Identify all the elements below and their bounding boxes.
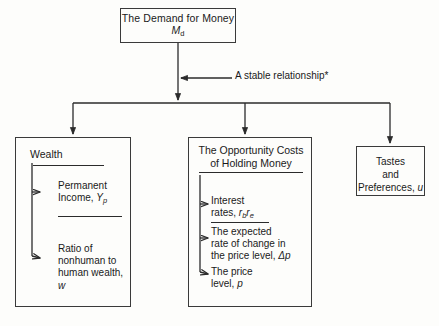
opportunity-item-interest-rates: Interest rates, rbre	[211, 195, 254, 222]
opportunity-header-line1: The Opportunity Costs	[196, 144, 306, 157]
opportunity-item-expected-price-change: The expected rate of change in the price…	[211, 226, 291, 263]
interest-rates-line2: rates, rbre	[211, 207, 254, 222]
opportunity-divider-rule	[211, 222, 269, 223]
root-symbol-subscript: d	[180, 29, 184, 38]
tastes-line3: Preferences, u	[357, 181, 424, 194]
price-level-symbol: p	[237, 278, 243, 289]
price-level-line2: level, p	[211, 278, 253, 290]
tastes-line2: and	[357, 168, 424, 181]
opportunity-item-price-level: The price level, p	[211, 266, 253, 290]
permanent-income-line1: Permanent	[58, 180, 107, 192]
root-box-title: The Demand for Money	[122, 12, 234, 24]
root-box-symbol: Md	[172, 24, 185, 40]
wealth-item-nonhuman-ratio: Ratio of nonhuman to human wealth, w	[58, 243, 130, 292]
ratio-symbol: w	[58, 280, 65, 291]
money-demand-diagram: The Demand for Money Md A stable relatio…	[0, 0, 439, 326]
opportunity-costs-box: The Opportunity Costs of Holding Money I…	[188, 137, 312, 307]
delta-p-symbol: Δp	[278, 250, 290, 261]
opportunity-header-line2: of Holding Money	[196, 157, 306, 170]
expected-change-line3: the price level, Δp	[211, 250, 291, 262]
wealth-box: Wealth Permanent Income, Yp Ratio of non…	[15, 137, 131, 307]
ratio-line2: nonhuman to	[58, 255, 130, 267]
root-box-demand-for-money: The Demand for Money Md	[120, 8, 236, 43]
tastes-symbol: u	[417, 182, 423, 193]
tastes-content: Tastes and Preferences, u	[357, 155, 424, 194]
tastes-line1: Tastes	[357, 155, 424, 168]
permanent-income-subscript: p	[103, 196, 107, 205]
price-level-line1: The price	[211, 266, 253, 278]
stable-relationship-annotation: A stable relationship*	[235, 70, 328, 81]
wealth-header: Wealth	[30, 148, 63, 161]
wealth-divider-rule	[58, 216, 122, 217]
expected-change-line2: rate of change in	[211, 238, 291, 250]
opportunity-costs-header: The Opportunity Costs of Holding Money	[196, 144, 306, 170]
expected-change-line1: The expected	[211, 226, 291, 238]
root-symbol-md: M	[172, 24, 181, 36]
interest-rate-equity-subscript: e	[250, 211, 254, 220]
wealth-header-rule	[33, 165, 104, 166]
wealth-item-permanent-income: Permanent Income, Yp	[58, 180, 107, 207]
interest-rates-line1: Interest	[211, 195, 254, 207]
permanent-income-line2: Income, Yp	[58, 192, 107, 207]
tastes-and-preferences-box: Tastes and Preferences, u	[356, 146, 425, 196]
ratio-line3: human wealth, w	[58, 267, 130, 291]
opportunity-header-rule	[199, 172, 303, 173]
ratio-line1: Ratio of	[58, 243, 130, 255]
